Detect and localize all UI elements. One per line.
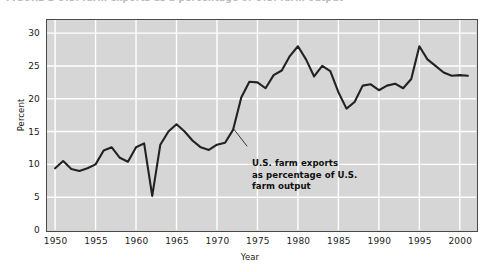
x-tick-label: 1960 — [115, 236, 159, 246]
x-tick-label: 1985 — [317, 236, 361, 246]
x-tick-label: 1975 — [236, 236, 280, 246]
x-tick-label: 1955 — [74, 236, 118, 246]
x-tick-label: 1980 — [276, 236, 320, 246]
y-tick-label: 30 — [0, 28, 40, 38]
y-tick-label: 15 — [0, 127, 40, 137]
y-tick-label: 5 — [0, 192, 40, 202]
annotation-line: farm output — [252, 181, 387, 193]
y-tick-label: 20 — [0, 94, 40, 104]
annotation-line: U.S. farm exports — [252, 158, 387, 170]
y-axis-title: Percent — [16, 80, 26, 150]
x-tick-label: 1970 — [195, 236, 239, 246]
chart-figure: Percent 051015202530 1950195519601965197… — [0, 0, 500, 272]
x-tick-label: 2000 — [438, 236, 482, 246]
plot-area — [46, 19, 478, 232]
annotation-line: as percentage of U.S. — [252, 170, 387, 182]
x-tick-label: 1965 — [155, 236, 199, 246]
y-tick-label: 10 — [0, 159, 40, 169]
x-tick-label: 1950 — [34, 236, 78, 246]
y-tick-label: 25 — [0, 61, 40, 71]
x-axis-title: Year — [0, 252, 500, 262]
vertical-gridlines — [55, 20, 460, 230]
plot-svg — [47, 20, 476, 230]
x-tick-label: 1990 — [357, 236, 401, 246]
x-tick-label: 1995 — [398, 236, 442, 246]
chart-annotation: U.S. farm exportsas percentage of U.S.fa… — [252, 158, 387, 193]
y-tick-label: 0 — [0, 225, 40, 235]
